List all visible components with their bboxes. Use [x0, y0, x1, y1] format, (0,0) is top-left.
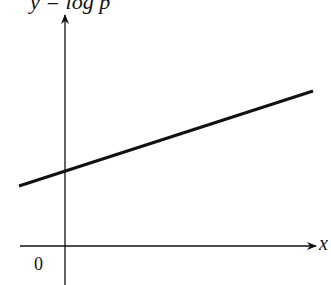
graph-canvas: [0, 0, 331, 285]
x-axis-label: x: [319, 232, 328, 255]
linear-function-line: [19, 91, 313, 186]
y-axis-label: y = log p: [30, 0, 110, 15]
origin-label: 0: [34, 254, 43, 275]
